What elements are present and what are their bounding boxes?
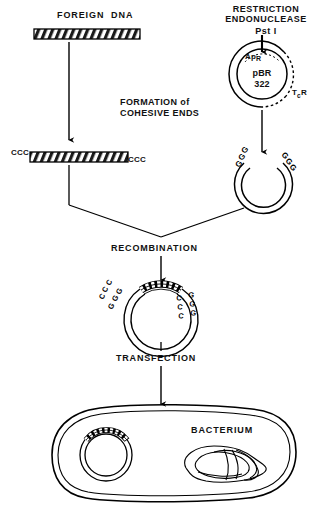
foreign-dna-label: FOREIGN DNA xyxy=(57,10,133,20)
svg-text:C: C xyxy=(178,311,185,321)
foreign-end-left-label: CCC xyxy=(11,148,29,157)
converge-lines-recombination xyxy=(69,165,244,237)
bacterial-chromosome xyxy=(185,446,266,482)
bacterium-label: BACTERIUM xyxy=(191,425,253,435)
foreign-dna-fragment xyxy=(34,29,140,39)
pbr-line2: 322 xyxy=(254,79,270,89)
apr-text: Ap xyxy=(245,52,256,61)
tcr-superscript: R xyxy=(301,88,307,97)
formation-line2: COHESIVE ENDS xyxy=(120,108,199,118)
restriction-line1: RESTRICTION xyxy=(233,4,300,14)
restriction-enzyme-label: RESTRICTIONENDONUCLEASE xyxy=(216,4,316,25)
plasmid-end-right-ggg: G G G xyxy=(280,150,299,173)
transfection-label: TRANSFECTION xyxy=(116,353,196,363)
plasmid-end-left-ggg: G G G xyxy=(233,145,250,169)
recombinant-left-junction: C C C G G G xyxy=(97,277,125,311)
svg-text:G: G xyxy=(106,301,117,311)
recombination-label: RECOMBINATION xyxy=(111,243,198,253)
svg-text:C: C xyxy=(104,277,115,287)
formation-cohesive-ends-label: FORMATION ofCOHESIVE ENDS xyxy=(120,97,199,119)
plasmid-name-label: pBR322 xyxy=(247,68,277,90)
pst-i-label: Pst I xyxy=(216,26,316,36)
foreign-dna-cohesive-ends xyxy=(30,152,128,162)
foreign-end-right-label: CCC xyxy=(128,155,146,164)
recombinant-right-junction: C C C G G G xyxy=(176,290,197,321)
plasmid-inside-bacterium xyxy=(80,429,132,481)
ampicillin-resistance-label: ApR xyxy=(245,52,261,61)
svg-text:G: G xyxy=(114,286,125,296)
pbr-line1: pBR xyxy=(252,68,271,78)
formation-line1: FORMATION of xyxy=(120,97,190,107)
tetracycline-resistance-label: TcR xyxy=(292,88,307,99)
apr-superscript: R xyxy=(256,55,261,62)
restriction-line2: ENDONUCLEASE xyxy=(225,14,307,24)
bacterium-cell xyxy=(52,405,296,502)
svg-text:G: G xyxy=(190,308,197,318)
cut-plasmid xyxy=(234,163,292,213)
